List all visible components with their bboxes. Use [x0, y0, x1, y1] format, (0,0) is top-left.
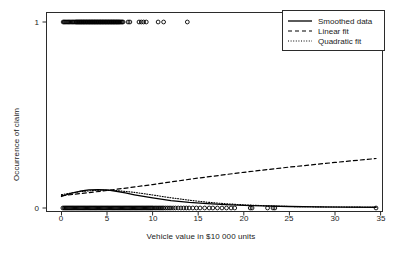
x-tick-label-30: 30	[331, 214, 340, 223]
x-axis-title: Vehicle value in $10 000 units	[0, 232, 402, 241]
y-axis-title: Occurrence of claim	[12, 108, 21, 181]
y-tick-label-1: 1	[27, 18, 39, 27]
x-tick-label-5: 5	[105, 214, 109, 223]
x-tick-label-10: 10	[149, 214, 158, 223]
y-tick-label-0: 0	[27, 204, 39, 213]
x-tick-label-35: 35	[377, 214, 386, 223]
legend-label-quadratic-fit: Quadratic fit	[318, 37, 361, 46]
x-tick-label-25: 25	[285, 214, 294, 223]
x-tick-label-20: 20	[240, 214, 249, 223]
x-tick-label-0: 0	[59, 214, 63, 223]
chart-figure: Vehicle value in $10 000 units Occurrenc…	[0, 0, 402, 253]
legend-label-linear-fit: Linear fit	[318, 27, 349, 36]
y-tick-marks	[43, 22, 47, 208]
legend-label-smoothed-data: Smoothed data	[318, 17, 372, 26]
x-tick-label-15: 15	[194, 214, 203, 223]
